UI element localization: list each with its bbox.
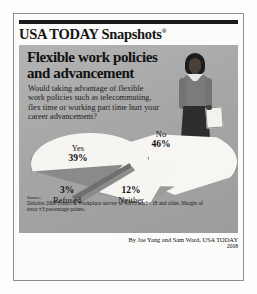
title-line-2: and advancement bbox=[27, 65, 134, 81]
snapshot-infographic: USA TODAY Snapshots® Flexible work polic… bbox=[0, 0, 257, 294]
registered-mark-icon: ® bbox=[162, 27, 167, 35]
pie-label-yes-name: Yes bbox=[55, 143, 101, 153]
pie-label-no: No 46% bbox=[141, 129, 181, 149]
title-line-1: Flexible work policies bbox=[27, 49, 157, 65]
pie-label-refused-value: 3% bbox=[43, 185, 91, 195]
pie-label-no-name: No bbox=[141, 129, 181, 139]
pie-label-yes: Yes 39% bbox=[55, 143, 101, 163]
pie-label-no-value: 46% bbox=[141, 139, 181, 149]
source-note: Source: Deloitte 2008 Ethics & Workplace… bbox=[27, 195, 207, 212]
survey-question: Would taking advantage of flexible work … bbox=[28, 84, 160, 122]
chart-panel: Flexible work policies and advancement W… bbox=[19, 45, 238, 233]
source-text: Deloitte 2008 Ethics & Workplace survey … bbox=[27, 200, 207, 212]
page-title: Flexible work policies and advancement bbox=[27, 49, 167, 81]
top-rule-divider bbox=[19, 20, 238, 24]
byline: By Jae Yang and Sam Ward, USA TODAY 2008 bbox=[19, 236, 238, 251]
brand-title: USA TODAY Snapshots® bbox=[19, 26, 238, 44]
pie-label-neither-value: 12% bbox=[107, 185, 155, 195]
byline-credit: By Jae Yang and Sam Ward, USA TODAY bbox=[129, 236, 239, 243]
figure-hand bbox=[206, 105, 212, 110]
pie-label-yes-value: 39% bbox=[55, 153, 101, 163]
byline-year: 2008 bbox=[19, 243, 238, 250]
brand-name: USA TODAY Snapshots bbox=[19, 26, 162, 42]
figure-left-arm bbox=[179, 78, 186, 109]
